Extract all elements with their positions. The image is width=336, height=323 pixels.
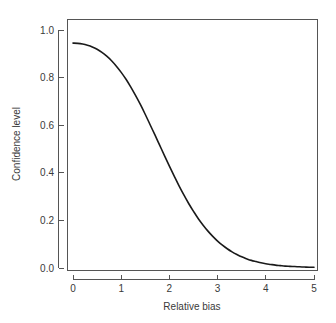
x-tick-label: 0	[70, 283, 76, 294]
y-tick-label: 0.8	[40, 72, 54, 83]
y-axis-title: Confidence level	[11, 107, 22, 181]
y-tick-label: 0.2	[40, 215, 54, 226]
x-tick-label: 2	[167, 283, 173, 294]
x-tick-label: 1	[118, 283, 124, 294]
x-tick-label: 5	[311, 283, 317, 294]
chart-container: 0.00.20.40.60.81.0 012345 Relative bias …	[0, 0, 336, 323]
y-tick-label: 0.6	[40, 120, 54, 131]
y-tick-label: 1.0	[40, 25, 54, 36]
y-tick-label: 0.4	[40, 167, 54, 178]
x-axis-title: Relative bias	[163, 301, 220, 312]
chart-plot-area: 0.00.20.40.60.81.0 012345 Relative bias …	[0, 0, 336, 323]
y-tick-label: 0.0	[40, 263, 54, 274]
x-tick-label: 3	[215, 283, 221, 294]
x-tick-label: 4	[263, 283, 269, 294]
